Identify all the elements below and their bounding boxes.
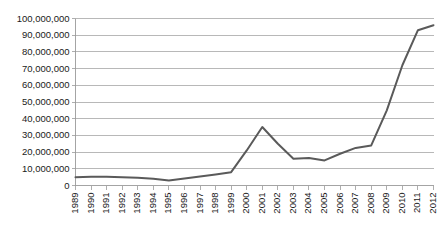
x-axis-tick-label: 1999 — [225, 193, 236, 214]
x-axis-tick-label: 2012 — [427, 193, 438, 214]
x-axis-tick-label: 2001 — [256, 193, 267, 214]
y-axis-tick-label: 0 — [64, 180, 69, 191]
x-axis-tick-label: 1991 — [100, 193, 111, 214]
x-axis-tick-label: 1996 — [178, 193, 189, 214]
y-axis-tick-label: 100,000,000 — [17, 13, 70, 24]
y-axis-tick-label: 70,000,000 — [22, 63, 70, 74]
x-axis-tick-label: 1997 — [194, 193, 205, 214]
x-axis-tick-label: 2000 — [240, 193, 251, 214]
x-axis-tick-label: 2008 — [365, 193, 376, 214]
y-axis-tick-label: 20,000,000 — [22, 146, 70, 157]
chart-canvas: 100,000,00090,000,00080,000,00070,000,00… — [0, 0, 448, 235]
x-axis-tick-label: 1992 — [116, 193, 127, 214]
y-axis-tick-label: 50,000,000 — [22, 96, 70, 107]
x-axis-tick-label: 2005 — [318, 193, 329, 214]
y-axis-tick-label: 10,000,000 — [22, 163, 70, 174]
x-axis-tick-label: 1994 — [147, 193, 158, 214]
x-axis-tick-label: 2007 — [349, 193, 360, 214]
x-axis-tick-label: 1993 — [131, 193, 142, 214]
y-axis-tick-label: 80,000,000 — [22, 46, 70, 57]
x-axis-tick-label: 2004 — [302, 193, 313, 214]
y-axis-tick-labels: 100,000,00090,000,00080,000,00070,000,00… — [17, 13, 70, 191]
y-axis-tick-label: 60,000,000 — [22, 79, 70, 90]
x-axis-tick-label: 2010 — [396, 193, 407, 214]
y-axis-tick-label: 90,000,000 — [22, 29, 70, 40]
y-axis-tick-label: 40,000,000 — [22, 113, 70, 124]
x-axis-tick-label: 1989 — [69, 193, 80, 214]
x-axis-tick-label: 1998 — [209, 193, 220, 214]
x-axis-tick-label: 2011 — [411, 193, 422, 213]
x-axis-tick-label: 2002 — [271, 193, 282, 214]
x-axis-tick-label: 2003 — [287, 193, 298, 214]
line-chart: 100,000,00090,000,00080,000,00070,000,00… — [0, 0, 448, 235]
x-axis-tick-label: 2006 — [334, 193, 345, 214]
x-axis-tick-label: 1995 — [162, 193, 173, 214]
y-axis-tick-label: 30,000,000 — [22, 129, 70, 140]
x-axis-tick-label: 2009 — [380, 193, 391, 214]
x-axis-tick-label: 1990 — [85, 193, 96, 214]
